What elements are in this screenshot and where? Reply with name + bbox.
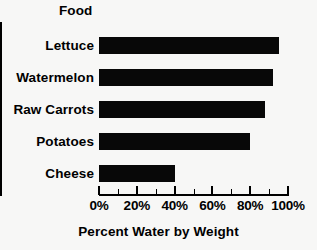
value-axis-title: Percent Water by Weight — [0, 224, 317, 239]
tick-major-60 — [211, 186, 213, 195]
tick-major-100 — [287, 186, 289, 195]
tick-label-60: 60% — [199, 198, 225, 213]
bar-fill — [99, 37, 279, 54]
tick-major-20 — [136, 186, 138, 195]
category-label-cheese: Cheese — [2, 166, 94, 181]
bar-fill — [99, 101, 265, 118]
tick-minor-90 — [269, 189, 270, 194]
tick-minor-50 — [194, 189, 195, 194]
tick-major-80 — [249, 186, 251, 195]
tick-minor-30 — [156, 189, 157, 194]
tick-major-40 — [174, 186, 176, 195]
bar-cheese — [99, 165, 175, 182]
bar-fill — [99, 165, 175, 182]
bar-watermelon — [99, 69, 273, 86]
bar-fill — [99, 69, 273, 86]
bar-chart: Food LettuceWatermelonRaw CarrotsPotatoe… — [0, 0, 317, 250]
category-axis-line — [99, 194, 289, 196]
tick-label-0: 0% — [89, 198, 108, 213]
tick-label-80: 80% — [237, 198, 263, 213]
tick-label-100: 100% — [271, 198, 305, 213]
tick-label-40: 40% — [161, 198, 187, 213]
bar-lettuce — [99, 37, 279, 54]
tick-major-0 — [98, 186, 100, 195]
category-label-lettuce: Lettuce — [2, 38, 94, 53]
category-label-raw-carrots: Raw Carrots — [2, 102, 94, 117]
category-label-watermelon: Watermelon — [2, 70, 94, 85]
bar-potatoes — [99, 133, 250, 150]
category-axis-title: Food — [59, 3, 92, 18]
category-label-potatoes: Potatoes — [2, 134, 94, 149]
tick-minor-70 — [231, 189, 232, 194]
tick-label-20: 20% — [124, 198, 150, 213]
bar-raw-carrots — [99, 101, 265, 118]
bar-fill — [99, 133, 250, 150]
tick-minor-10 — [118, 189, 119, 194]
